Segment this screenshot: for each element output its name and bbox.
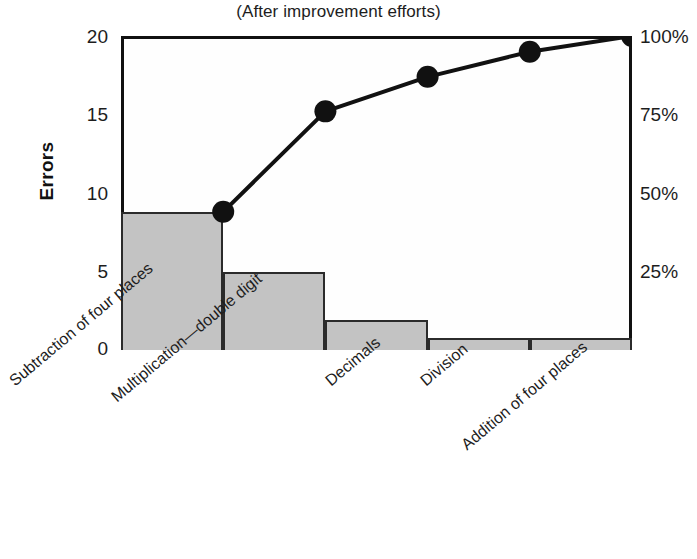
y-tick-label-20: 20 <box>52 26 108 48</box>
y2-tick-label-50: 50% <box>640 183 697 205</box>
plot-area <box>121 36 632 350</box>
y-tick-label-5: 5 <box>52 261 108 283</box>
y2-tick-label-25: 25% <box>640 261 697 283</box>
chart-title-text: (After improvement efforts) <box>236 2 441 21</box>
y-tick-label-10: 10 <box>52 183 108 205</box>
y2-tick-label-75: 75% <box>640 104 697 126</box>
x-axis-label-4: Addition of four places <box>458 338 591 454</box>
y-tick-label-15: 15 <box>52 104 108 126</box>
chart-title: (After improvement efforts) <box>0 2 697 22</box>
pareto-chart: (After improvement efforts) Errors 20 15… <box>0 0 697 559</box>
y2-tick-label-100: 100% <box>640 26 697 48</box>
y-axis-title: Errors <box>36 116 58 226</box>
